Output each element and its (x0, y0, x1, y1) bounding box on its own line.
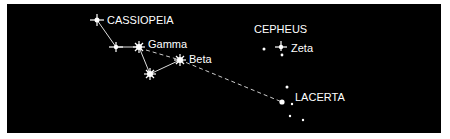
star-cepheus-small-icon (263, 48, 266, 51)
star-lacerta-lower1-icon (289, 115, 291, 117)
star-cepheus-below-icon (281, 54, 284, 57)
label-cepheus: CEPHEUS (254, 23, 307, 35)
star-cassiopeia-top-icon (90, 14, 104, 26)
label-zeta: Zeta (291, 42, 313, 54)
star-lacerta-bright-icon (279, 99, 284, 104)
star-lacerta-lower2-icon (302, 119, 304, 121)
label-cassiopeia: CASSIOPEIA (107, 14, 174, 26)
star-beta-icon (174, 54, 186, 66)
star-chart-graphic (0, 0, 450, 139)
star-lacerta-upper-icon (286, 86, 289, 89)
star-lacerta-small-icon (291, 103, 293, 105)
star-cassiopeia-second-icon (109, 42, 123, 52)
star-zeta-icon (275, 41, 287, 51)
cepheus-stars (263, 41, 288, 56)
star-gamma-icon (133, 41, 145, 53)
label-beta: Beta (189, 53, 212, 65)
label-lacerta: LACERTA (295, 91, 345, 103)
label-gamma: Gamma (148, 38, 187, 50)
pointer-dashed-line (146, 50, 282, 102)
star-cassiopeia-lower-icon (144, 68, 156, 80)
